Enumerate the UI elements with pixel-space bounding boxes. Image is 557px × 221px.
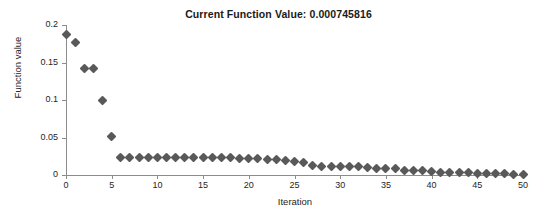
x-tick-label: 10 bbox=[142, 180, 172, 190]
x-tick-label: 5 bbox=[97, 180, 127, 190]
y-tick-label: 0.15 bbox=[0, 57, 58, 67]
x-tick-mark bbox=[66, 175, 67, 179]
y-tick-label: 0.05 bbox=[0, 132, 58, 142]
y-tick-label: 0 bbox=[0, 169, 58, 179]
x-tick-label: 30 bbox=[325, 180, 355, 190]
y-tick-label: 0.1 bbox=[0, 94, 58, 104]
plot-area bbox=[66, 25, 523, 175]
x-tick-label: 45 bbox=[462, 180, 492, 190]
x-tick-mark bbox=[249, 175, 250, 179]
y-axis-label: Function value bbox=[12, 13, 23, 123]
x-tick-mark bbox=[386, 175, 387, 179]
x-tick-label: 25 bbox=[280, 180, 310, 190]
x-tick-label: 20 bbox=[234, 180, 264, 190]
x-tick-label: 50 bbox=[508, 180, 538, 190]
x-tick-mark bbox=[340, 175, 341, 179]
chart-title: Current Function Value: 0.000745816 bbox=[0, 8, 557, 20]
x-tick-label: 15 bbox=[188, 180, 218, 190]
x-tick-label: 40 bbox=[417, 180, 447, 190]
x-tick-label: 35 bbox=[371, 180, 401, 190]
x-tick-mark bbox=[295, 175, 296, 179]
figure-container: Current Function Value: 0.000745816 0510… bbox=[0, 0, 557, 221]
x-tick-mark bbox=[203, 175, 204, 179]
y-tick-mark bbox=[62, 175, 66, 176]
x-tick-mark bbox=[157, 175, 158, 179]
x-axis-label: Iteration bbox=[66, 196, 524, 207]
x-tick-mark bbox=[112, 175, 113, 179]
x-tick-label: 0 bbox=[51, 180, 81, 190]
y-tick-label: 0.2 bbox=[0, 19, 58, 29]
